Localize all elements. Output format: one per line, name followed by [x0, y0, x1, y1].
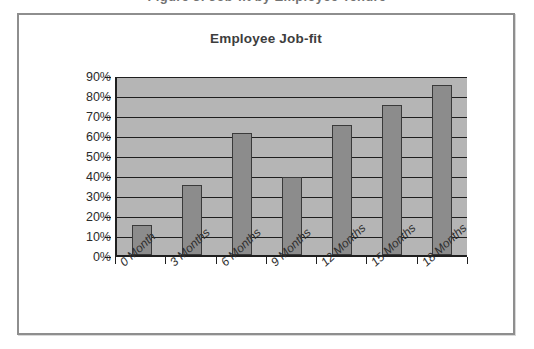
- y-axis-tick-mark: [105, 117, 111, 118]
- bar-slot: [217, 77, 267, 255]
- y-axis-tick-mark: [105, 177, 111, 178]
- y-axis-tick-mark: [105, 197, 111, 198]
- x-axis-tick-mark: [467, 257, 468, 264]
- y-axis-tick-mark: [105, 77, 111, 78]
- bar-slot: [117, 77, 167, 255]
- y-axis-tick-mark: [105, 137, 111, 138]
- y-axis-tick-mark: [105, 237, 111, 238]
- y-axis-tick-mark: [105, 257, 111, 258]
- y-axis-tick-labels: 90%80%70%60%50%40%30%20%10%0%: [63, 70, 111, 250]
- y-axis-tick-mark: [105, 157, 111, 158]
- y-axis-tick-mark: [105, 97, 111, 98]
- x-axis-category-labels: 0 Month3 Months6 Months9 Months12 Months…: [115, 259, 467, 337]
- y-axis-tick-mark: [105, 217, 111, 218]
- chart-title: Employee Job-fit: [19, 31, 513, 46]
- chart-page-frame: Employee Job-fit 90%80%70%60%50%40%30%20…: [17, 13, 515, 335]
- bar-slot: [167, 77, 217, 255]
- bar-slot: [267, 77, 317, 255]
- clipped-page-header: Figure 3: Job-fit by Employee Tenure: [0, 0, 534, 4]
